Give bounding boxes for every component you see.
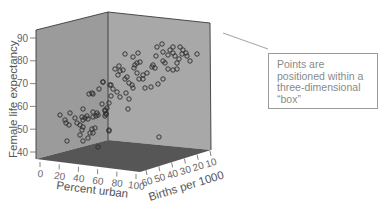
x-tick-label: 0 xyxy=(37,168,44,180)
y-axis: 405060708090 xyxy=(17,33,36,158)
z-tick-label: 20 xyxy=(191,159,205,173)
z-tick-label: 50 xyxy=(153,171,167,185)
y-axis-title: Female life expectancy xyxy=(7,40,19,158)
callout-line-1: Points are xyxy=(277,59,377,71)
z-tick-label: 60 xyxy=(140,175,154,189)
z-tick-label: 10 xyxy=(204,156,218,170)
z-tick-label: 30 xyxy=(178,163,192,177)
callout-leader-line xyxy=(223,33,268,49)
callout-box: Points are positioned within a three-dim… xyxy=(268,53,378,109)
callout-line-3: three-dimensional xyxy=(277,82,377,94)
left-wall xyxy=(36,12,108,159)
z-tick-label: 40 xyxy=(166,167,180,181)
callout-line-4: “box” xyxy=(277,94,377,106)
